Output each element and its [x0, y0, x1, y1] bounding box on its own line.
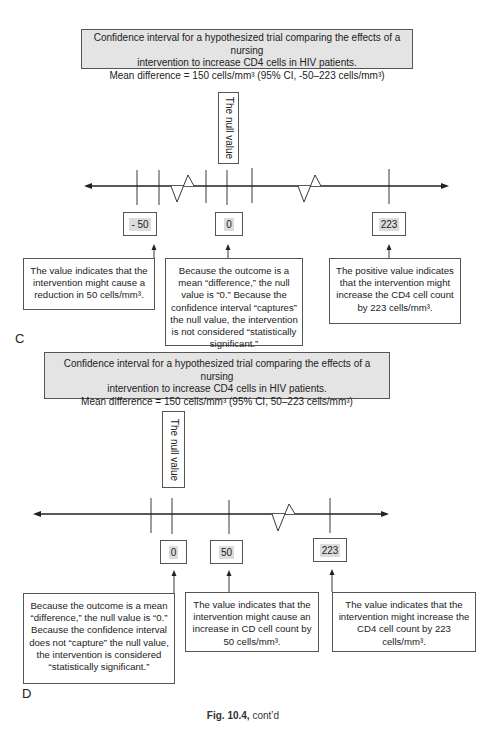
panel-c-value-223: 223	[372, 212, 406, 236]
panel-d-header-line1: Confidence interval for a hypothesized t…	[49, 358, 385, 383]
caption-text: cont’d	[250, 710, 279, 721]
panel-c-value-minus-50: - 50	[123, 212, 157, 236]
panel-c-null-value-label: The null value	[218, 92, 239, 164]
explanation-text: The value indicates that the interventio…	[30, 265, 147, 300]
panel-d-header-line2: intervention to increase CD4 cells in HI…	[49, 383, 385, 396]
panel-c-axis	[84, 168, 449, 205]
panel-c-value-0: 0	[215, 212, 243, 236]
panel-d-header-line3: Mean difference = 150 cells/mm³ (95% CI,…	[49, 396, 385, 409]
panel-d-header: Confidence interval for a hypothesized t…	[44, 352, 390, 399]
panel-d-null-value-label: The null value	[162, 411, 185, 488]
panel-d-connectors	[172, 569, 335, 593]
explanation-text: The value indicates that the interventio…	[193, 599, 312, 647]
panel-d-explanation-lower: The value indicates that the interventio…	[185, 592, 319, 652]
panel-d-value-0: 0	[160, 540, 187, 564]
panel-d-explanation-upper: The value indicates that the interventio…	[332, 592, 476, 652]
panel-d-explanation-null: Because the outcome is a mean “differenc…	[23, 593, 175, 684]
value-text: 223	[320, 544, 341, 557]
explanation-text: Because the outcome is a mean “differenc…	[29, 600, 169, 672]
panel-d-axis	[33, 498, 389, 534]
explanation-text: The positive value indicates that the in…	[336, 265, 454, 313]
panel-c-header-line1: Confidence interval for a hypothesized t…	[86, 32, 408, 57]
panel-c-explanation-lower: The value indicates that the interventio…	[23, 258, 155, 310]
value-text: - 50	[129, 218, 150, 231]
panel-c-connectors	[152, 244, 392, 258]
explanation-text: Because the outcome is a mean “differenc…	[170, 265, 297, 349]
value-text: 0	[224, 218, 234, 231]
value-text: 0	[169, 546, 179, 559]
panel-c-header: Confidence interval for a hypothesized t…	[81, 29, 413, 69]
panel-c-header-line2: intervention to increase CD4 cells in HI…	[86, 57, 408, 70]
explanation-text: The value indicates that the interventio…	[339, 599, 470, 647]
panel-d-label: D	[22, 686, 31, 701]
panel-c-explanation-upper: The positive value indicates that the in…	[329, 258, 461, 324]
null-value-text: The null value	[223, 97, 234, 159]
null-value-text: The null value	[168, 418, 179, 480]
panel-c-label: C	[15, 331, 24, 346]
figure-caption: Fig. 10.4, cont’d	[0, 710, 486, 721]
panel-c-header-line3: Mean difference = 150 cells/mm³ (95% CI,…	[86, 70, 408, 83]
caption-figure-number: Fig. 10.4,	[207, 710, 250, 721]
value-text: 50	[219, 546, 234, 559]
value-text: 223	[379, 218, 400, 231]
panel-c-explanation-null: Because the outcome is a mean “differenc…	[165, 258, 303, 346]
panel-d-value-50: 50	[210, 540, 243, 564]
panel-d-value-223: 223	[313, 538, 347, 562]
